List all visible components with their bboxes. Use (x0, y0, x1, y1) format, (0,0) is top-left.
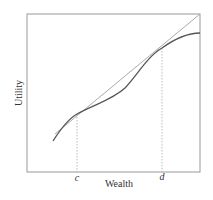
d-label: d (160, 171, 166, 182)
tangent-line (55, 14, 200, 134)
y-axis-label: Utility (13, 80, 24, 106)
utility-chart: c d Wealth Utility (0, 0, 213, 200)
utility-curve (53, 33, 200, 141)
x-axis-label: Wealth (105, 178, 133, 189)
c-label: c (75, 172, 80, 183)
plot-frame (27, 14, 200, 172)
